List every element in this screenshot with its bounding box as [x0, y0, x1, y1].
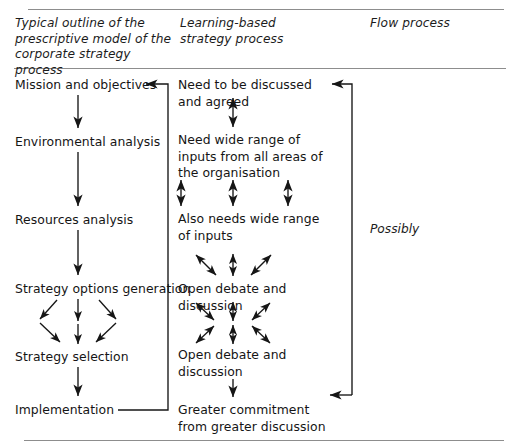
- node-mission-and-objectives: Mission and objectives: [15, 77, 156, 94]
- arrow-fan-top-left: [40, 300, 57, 319]
- arrow-clusterB-right-lower: [252, 326, 270, 343]
- column-heading-right: Flow process: [370, 16, 500, 32]
- rule-top: [28, 9, 504, 10]
- node-strategy-selection: Strategy selection: [15, 349, 129, 366]
- loop-right-up-to-discussed: [332, 84, 352, 395]
- arrow-fan-top-right: [99, 300, 116, 319]
- arrow-clusterA-right: [251, 255, 271, 275]
- node-also-needs-wide-range: Also needs wide range of inputs: [178, 211, 328, 244]
- rule-bottom: [24, 440, 504, 441]
- node-environmental-analysis: Environmental analysis: [15, 134, 160, 151]
- node-open-debate-one: Open debate and discussion: [178, 281, 348, 314]
- column-heading-left: Typical outline of the prescriptive mode…: [15, 16, 180, 78]
- arrow-fan-bottom-right: [96, 323, 116, 342]
- node-implementation: Implementation: [15, 402, 114, 419]
- arrow-clusterA-left: [196, 255, 216, 275]
- node-greater-commitment: Greater commitment from greater discussi…: [178, 402, 338, 435]
- node-need-to-be-discussed: Need to be discussed and agreed: [178, 77, 328, 110]
- arrow-clusterB-left-lower: [196, 326, 214, 343]
- label-possibly: Possibly: [370, 222, 419, 236]
- node-strategy-options-generation: Strategy options generation: [15, 281, 190, 298]
- column-heading-middle: Learning-based strategy process: [180, 16, 330, 47]
- node-need-wide-range: Need wide range of inputs from all areas…: [178, 132, 330, 182]
- node-resources-analysis: Resources analysis: [15, 212, 133, 229]
- node-open-debate-two: Open debate and discussion: [178, 347, 308, 380]
- arrow-fan-bottom-left: [40, 323, 60, 342]
- figure-container: Typical outline of the prescriptive mode…: [0, 0, 512, 445]
